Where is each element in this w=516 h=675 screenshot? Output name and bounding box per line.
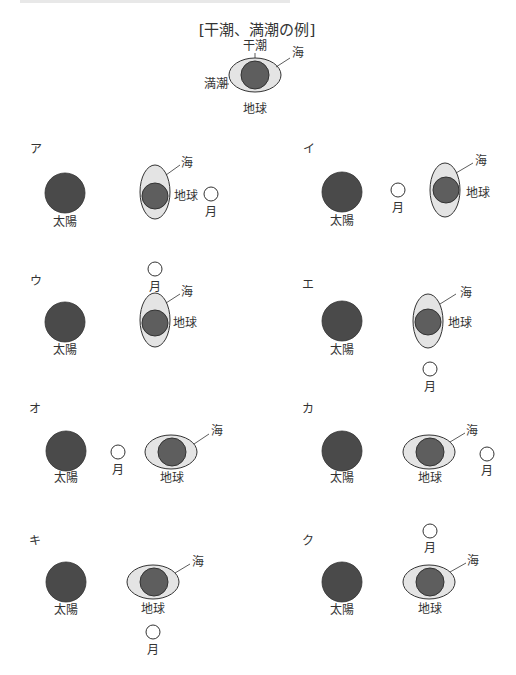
sun-circle [322, 301, 362, 341]
sea-leader [276, 58, 290, 67]
low-tide-label: 干潮 [243, 38, 267, 53]
moon-label: 月 [205, 205, 217, 219]
earth-label: 地球 [466, 186, 490, 200]
earth-circle [158, 438, 186, 466]
tide-diagram: .sun { fill:#4a4a4a; stroke:#333; stroke… [0, 0, 516, 675]
sea-label: 海 [292, 45, 304, 60]
sea-label: 海 [192, 554, 204, 569]
sea-label: 海 [181, 284, 193, 299]
sun-label: 太陽 [330, 602, 354, 617]
sun-circle [46, 562, 86, 602]
moon-circle [423, 362, 437, 376]
moon-circle [391, 183, 405, 197]
earth-circle [416, 438, 444, 466]
earth-label: 地球 [173, 316, 197, 330]
sea-leader [166, 294, 180, 303]
cut-off-text-line [20, 0, 290, 3]
sun-label: 太陽 [54, 470, 78, 485]
option-i: イ 太陽 月 海 地球 [303, 142, 490, 228]
earth-label: 地球 [141, 602, 165, 616]
earth-circle [142, 183, 168, 209]
earth-circle [433, 177, 459, 203]
sun-label: 太陽 [330, 470, 354, 485]
moon-circle [146, 625, 160, 639]
sun-label: 太陽 [53, 342, 77, 357]
earth-circle [415, 309, 441, 335]
option-o: オ 太陽 月 海 地球 [29, 402, 223, 485]
earth-circle [241, 61, 269, 89]
option-ki: キ 太陽 海 地球 月 [29, 534, 204, 657]
sun-circle [45, 173, 85, 213]
sun-circle [46, 431, 86, 471]
sea-leader [450, 563, 466, 572]
earth-label: 地球 [160, 471, 184, 485]
earth-label: 地球 [418, 602, 442, 616]
moon-circle [480, 447, 494, 461]
moon-label: 月 [392, 201, 404, 215]
sea-label: 海 [467, 553, 479, 568]
example-diagram: [干潮、満潮の例] 干潮 満潮 海 地球 [199, 21, 316, 116]
sea-leader [194, 434, 209, 444]
sun-label: 太陽 [330, 342, 354, 357]
option-ku: ク 太陽 月 海 地球 [302, 524, 479, 617]
sea-label: 海 [211, 423, 223, 438]
option-label: キ [29, 534, 41, 548]
moon-circle [148, 262, 162, 276]
sea-label: 海 [475, 153, 487, 168]
moon-label: 月 [481, 464, 493, 478]
sun-circle [322, 562, 362, 602]
option-label: カ [302, 402, 314, 416]
sea-leader [175, 564, 190, 573]
sun-label: 太陽 [330, 213, 354, 228]
sea-label: 海 [460, 285, 472, 300]
sea-leader [450, 433, 465, 442]
sea-leader [166, 165, 180, 175]
moon-circle [204, 187, 218, 201]
moon-label: 月 [147, 643, 159, 657]
earth-label: 地球 [448, 316, 472, 330]
option-label: ア [30, 142, 42, 156]
moon-label: 月 [424, 541, 436, 555]
high-tide-label: 満潮 [204, 76, 228, 91]
option-label: エ [302, 278, 314, 292]
option-e: エ 太陽 海 地球 月 [302, 278, 472, 394]
earth-circle [140, 568, 168, 596]
moon-label: 月 [112, 463, 124, 477]
option-label: オ [29, 402, 41, 416]
earth-label: 地球 [174, 189, 198, 203]
moon-circle [423, 524, 437, 538]
option-label: ク [302, 534, 314, 548]
option-u: ウ 太陽 月 海 地球 [30, 262, 197, 357]
sea-label: 海 [181, 155, 193, 170]
earth-label: 地球 [418, 471, 442, 485]
earth-label: 地球 [243, 102, 267, 116]
sea-leader [440, 294, 456, 304]
option-label: イ [303, 142, 315, 156]
sun-circle [45, 302, 85, 342]
moon-circle [111, 445, 125, 459]
sea-label: 海 [466, 423, 478, 438]
sun-circle [322, 172, 362, 212]
sun-label: 太陽 [54, 602, 78, 617]
moon-label: 月 [424, 380, 436, 394]
option-a: ア 太陽 海 地球 月 [30, 142, 218, 229]
earth-circle [142, 310, 168, 336]
sun-label: 太陽 [53, 214, 77, 229]
sea-leader [456, 163, 473, 173]
option-ka: カ 太陽 海 地球 月 [302, 402, 494, 485]
option-label: ウ [30, 274, 42, 288]
example-title: [干潮、満潮の例] [199, 21, 316, 39]
sun-circle [322, 431, 362, 471]
moon-label: 月 [149, 280, 161, 294]
earth-circle [416, 568, 444, 596]
